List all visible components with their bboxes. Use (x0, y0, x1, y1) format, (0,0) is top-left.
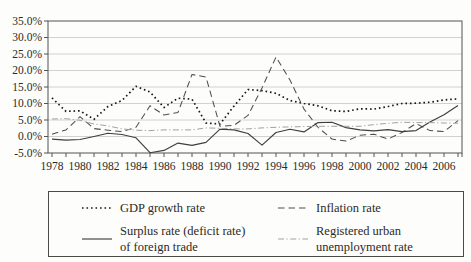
y-axis-tick-label: 0.0% (18, 130, 42, 142)
x-axis-tick-label: 1992 (237, 160, 260, 172)
x-axis-tick-label: 1986 (153, 160, 176, 172)
x-axis-tick-label: 2000 (349, 160, 372, 172)
y-axis-tick-label: 20.0% (12, 64, 42, 76)
x-axis-tick-label: 1980 (69, 160, 92, 172)
x-axis-tick-label: 1994 (265, 160, 288, 172)
x-axis-tick-label: 2002 (377, 160, 400, 172)
y-axis-tick-label: 30.0% (12, 31, 42, 43)
legend-item-trade-surplus-rate: Surplus rate (deficit rate) of foreign t… (49, 223, 278, 255)
dotted-line-swatch-icon (82, 203, 112, 213)
legend-label-line: Surplus rate (deficit rate) (120, 223, 245, 239)
x-axis-tick-label: 1990 (209, 160, 232, 172)
legend-label: GDP growth rate (120, 200, 205, 216)
legend-label-line: Registered urban (316, 223, 413, 239)
x-axis-tick-label: 2006 (433, 160, 456, 172)
y-axis-tick-label: 35.0% (12, 15, 42, 27)
dashed-line-swatch-icon (278, 203, 308, 213)
y-axis: 35.0%30.0%25.0%20.0%15.0%10.0%5.0%0.0%-5… (12, 15, 48, 159)
legend-item-gdp-growth-rate: GDP growth rate (49, 200, 278, 216)
y-axis-tick-label: 25.0% (12, 48, 42, 60)
y-axis-tick-label: 5.0% (18, 114, 42, 126)
x-axis: 1978198019821984198619881990199219941996… (41, 153, 463, 172)
x-axis-tick-label: 1988 (181, 160, 204, 172)
legend-label: Inflation rate (316, 200, 381, 216)
x-axis-tick-label: 2004 (405, 160, 428, 172)
legend-item-inflation-rate: Inflation rate (278, 200, 463, 216)
legend-label-line: unemployment rate (316, 239, 413, 255)
y-axis-tick-label: 15.0% (12, 81, 42, 93)
line-chart: 35.0%30.0%25.0%20.0%15.0%10.0%5.0%0.0%-5… (0, 0, 471, 190)
x-axis-tick-label: 1982 (97, 160, 120, 172)
series-solid-line (52, 106, 458, 153)
gridlines (48, 38, 462, 137)
legend-label-line: of foreign trade (120, 239, 245, 255)
series-dashdot-line (52, 119, 458, 131)
dashdot-line-swatch-icon (278, 234, 308, 244)
x-axis-tick-label: 1996 (293, 160, 316, 172)
x-axis-tick-label: 1998 (321, 160, 344, 172)
solid-line-swatch-icon (82, 234, 112, 244)
legend-label: Surplus rate (deficit rate) of foreign t… (120, 223, 245, 255)
legend-label: Registered urban unemployment rate (316, 223, 413, 255)
chart-legend: GDP growth rate Inflation rate Surplus r… (48, 191, 464, 257)
legend-item-registered-urban-unemployment-rate: Registered urban unemployment rate (278, 223, 463, 255)
y-axis-tick-label: -5.0% (14, 147, 42, 159)
x-axis-tick-label: 1978 (41, 160, 64, 172)
legend-label-line: Inflation rate (316, 200, 381, 216)
legend-label-line: GDP growth rate (120, 200, 205, 216)
x-axis-tick-label: 1984 (125, 160, 148, 172)
y-axis-tick-label: 10.0% (12, 97, 42, 109)
series-dotted-line (52, 86, 458, 124)
